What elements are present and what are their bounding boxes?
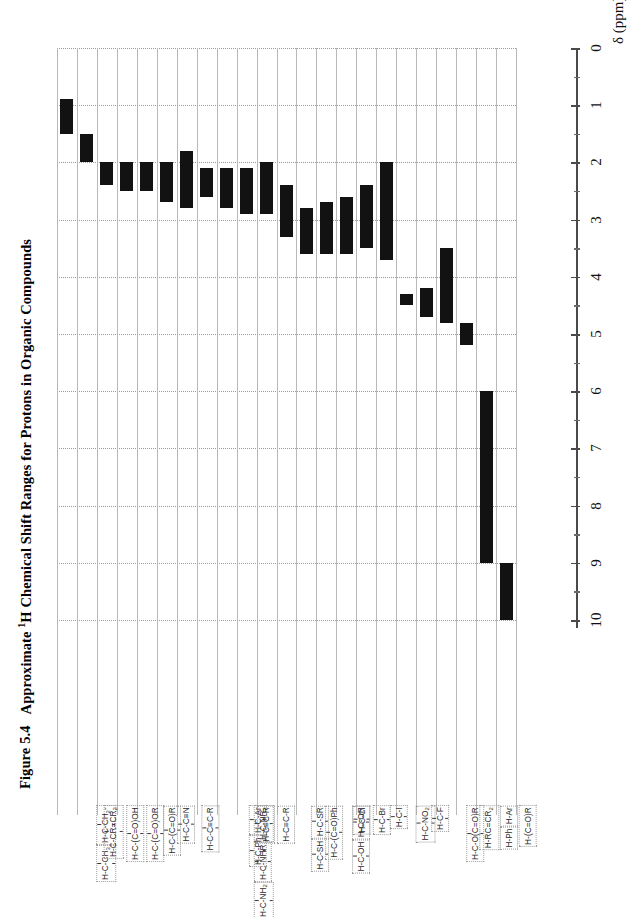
structure-fragment: H-C-C≡C-R — [203, 806, 219, 851]
shift-range-bar — [80, 134, 93, 163]
axis-tick-label: 0 — [588, 38, 605, 58]
axis-tick-label: 10 — [588, 610, 605, 630]
compound-label-aldehyde: H-(C=O)R — [496, 624, 519, 810]
structure-fragment: H-C-NH2 — [255, 883, 273, 918]
shift-range-bar — [280, 185, 293, 236]
shift-range-bar — [300, 208, 313, 254]
axis-tick-major — [571, 334, 580, 336]
figure-caption: Figure 5.4 Approximate 1H Chemical Shift… — [8, 0, 42, 813]
shift-range-bar — [200, 168, 213, 197]
axis-tick-major — [571, 105, 580, 107]
shift-range-bar — [480, 391, 493, 563]
ppm-gridline — [57, 105, 516, 106]
axis-tick-major — [571, 620, 580, 622]
axis-tick-label: 6 — [588, 381, 605, 401]
ppm-gridline — [57, 563, 516, 564]
figure-number: Figure 5.4 — [17, 725, 34, 789]
ppm-gridline — [57, 620, 516, 621]
structure-fragment: H-C-C≡N — [178, 806, 194, 842]
ppm-gridline — [57, 448, 516, 449]
structure-fragment: H-C-(C=O)Ph — [326, 806, 342, 858]
shift-range-bar — [500, 563, 513, 620]
axis-tick-minor — [574, 591, 580, 592]
axis-title: δ (ppm) — [610, 0, 627, 44]
shift-range-bar — [120, 162, 133, 191]
superscript-one: 1 — [16, 623, 27, 628]
shift-range-bar — [460, 323, 473, 346]
structure-fragment: H-Ph — [501, 827, 517, 848]
axis-tick-major — [571, 48, 580, 50]
shift-range-bar — [220, 168, 233, 208]
axis-tick-label: 4 — [588, 267, 605, 287]
shift-range-bar — [240, 168, 253, 214]
ppm-gridline — [57, 391, 516, 392]
shift-range-bar — [180, 151, 193, 208]
structure-fragment: H-C≡C-R — [278, 806, 294, 842]
axis-tick-minor — [574, 477, 580, 478]
shift-range-bar — [380, 162, 393, 259]
axis-tick-minor — [574, 534, 580, 535]
ppm-gridline — [57, 334, 516, 335]
shift-range-bar — [320, 202, 333, 253]
axis-tick-major — [571, 563, 580, 565]
chart-plot-area — [57, 48, 516, 620]
shift-range-bar — [260, 162, 273, 213]
axis-tick-minor — [574, 134, 580, 135]
ppm-axis: δ (ppm) 012345678910 — [574, 40, 578, 628]
axis-tick-label: 8 — [588, 496, 605, 516]
shift-range-bar — [360, 185, 373, 248]
axis-tick-minor — [574, 363, 580, 364]
axis-tick-minor — [574, 420, 580, 421]
axis-tick-label: 2 — [588, 152, 605, 172]
shift-range-bar — [140, 162, 153, 191]
axis-tick-label: 3 — [588, 210, 605, 230]
axis-tick-minor — [574, 305, 580, 306]
axis-tick-major — [571, 162, 580, 164]
axis-tick-major — [571, 277, 580, 279]
axis-tick-major — [571, 391, 580, 393]
axis-tick-label: 7 — [588, 438, 605, 458]
axis-tick-major — [571, 448, 580, 450]
structure-fragment: H-(C=O)R — [519, 806, 535, 846]
shift-range-bar — [340, 197, 353, 254]
axis-tick-major — [571, 506, 580, 508]
figure-title: Approximate 1H Chemical Shift Ranges for… — [16, 239, 35, 714]
shift-range-bar — [60, 99, 73, 133]
axis-tick-minor — [574, 248, 580, 249]
axis-tick-major — [571, 220, 580, 222]
shift-range-bar — [400, 294, 413, 305]
ppm-gridline — [57, 48, 516, 49]
structure-fragment: H-C-OH — [353, 840, 369, 872]
shift-range-bar — [100, 162, 113, 185]
axis-tick-minor — [574, 191, 580, 192]
shift-range-bar — [440, 248, 453, 322]
axis-tick-label: 1 — [588, 95, 605, 115]
axis-tick-label: 5 — [588, 324, 605, 344]
axis-tick-label: 9 — [588, 553, 605, 573]
shift-range-bar — [420, 288, 433, 317]
shift-range-bar — [160, 162, 173, 202]
ppm-gridline — [57, 506, 516, 507]
compound-labels-strip: H-C-CH3 H-C-CH2-H-C-CR=CR2H-C-(C=O)OHH-C… — [57, 622, 516, 812]
axis-tick-minor — [574, 77, 580, 78]
